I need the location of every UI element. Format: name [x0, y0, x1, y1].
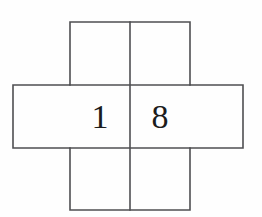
cube-net-figure: 1 8 — [0, 0, 262, 217]
digit-eight-label: 8 — [152, 98, 169, 135]
digit-one-label: 1 — [92, 98, 109, 135]
cube-net-svg: 1 8 — [0, 0, 262, 217]
net-outline-path — [13, 22, 243, 210]
